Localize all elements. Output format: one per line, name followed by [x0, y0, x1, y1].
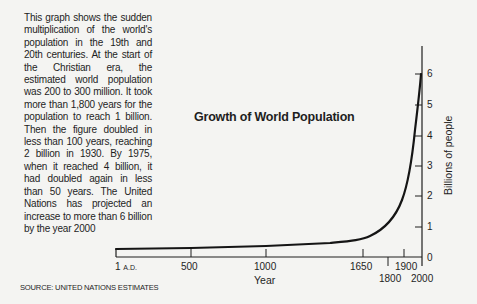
y-tick-6: 6	[427, 68, 433, 79]
y-tick-4: 4	[427, 130, 433, 141]
population-curve	[116, 74, 421, 249]
y-tick-1: 1	[427, 221, 433, 232]
y-tick-3: 3	[427, 160, 433, 171]
x-tick-1650: 1650	[350, 261, 372, 272]
y-tick-0: 0	[427, 252, 433, 263]
y-tick-5: 5	[427, 99, 433, 110]
chart-title: Growth of World Population	[194, 110, 355, 124]
source-note: SOURCE: UNITED NATIONS ESTIMATES	[20, 283, 158, 292]
x-tick-1ad: 1 A.D.	[115, 261, 137, 272]
y-axis-label: Billions of people	[442, 123, 454, 195]
x-tick-500: 500	[181, 261, 198, 272]
x-tick-1800: 1800	[379, 273, 401, 284]
y-tick-2: 2	[427, 190, 433, 201]
x-axis-label: Year	[254, 274, 275, 286]
population-chart	[0, 0, 477, 304]
x-tick-1000: 1000	[254, 261, 276, 272]
x-tick-2000: 2000	[411, 273, 433, 284]
x-tick-1900: 1900	[395, 261, 417, 272]
